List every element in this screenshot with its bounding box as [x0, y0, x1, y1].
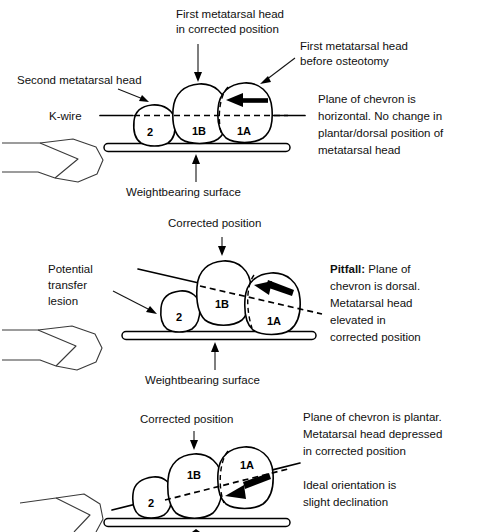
weightbearing-surface-bar-plantar — [104, 519, 290, 527]
bone-label-1A: 1A — [267, 315, 281, 327]
svg-text:Metatarsal head: Metatarsal head — [330, 297, 412, 309]
svg-text:lesion: lesion — [48, 295, 78, 307]
bone-label-2: 2 — [176, 311, 182, 323]
label-kwire-horizontal: K-wire — [49, 110, 82, 122]
svg-text:Second metatarsal head: Second metatarsal head — [17, 74, 142, 86]
bone-first-metatarsal-corrected-plantar: 1B — [168, 454, 222, 518]
pitfall-bold-label: Pitfall: — [330, 263, 365, 275]
svg-text:First metatarsal head: First metatarsal head — [300, 40, 408, 52]
bone-first-metatarsal-corrected-dorsal: 1B — [197, 261, 251, 325]
svg-text:Corrected position: Corrected position — [168, 217, 261, 229]
bone-label-1B: 1B — [187, 469, 201, 481]
bone-label-1B: 1B — [192, 125, 206, 137]
svg-text:Corrected position: Corrected position — [140, 413, 233, 425]
svg-text:slight declination: slight declination — [303, 496, 388, 508]
svg-text:Plane of chevron is plantar.: Plane of chevron is plantar. — [303, 411, 442, 423]
bone-second-metatarsal-head-horizontal: 2 — [134, 105, 175, 146]
svg-text:Weightbearing surface: Weightbearing surface — [145, 374, 260, 386]
svg-text:in corrected position: in corrected position — [303, 445, 406, 457]
svg-text:Plane of chevron is: Plane of chevron is — [318, 93, 416, 105]
svg-text:before osteotomy: before osteotomy — [300, 55, 389, 67]
svg-text:First metatarsal head: First metatarsal head — [176, 8, 284, 20]
weightbearing-surface-bar-dorsal — [122, 332, 316, 340]
bone-label-2: 2 — [147, 126, 153, 138]
svg-text:plantar/dorsal position of: plantar/dorsal position of — [318, 127, 444, 139]
pitfall-rest-label: Plane of — [365, 263, 411, 275]
svg-text:in corrected position: in corrected position — [176, 23, 279, 35]
svg-text:transfer: transfer — [48, 279, 87, 291]
svg-text:Pitfall: Plane of: Pitfall: Plane of — [330, 263, 411, 275]
svg-text:Ideal orientation is: Ideal orientation is — [303, 479, 397, 491]
bone-label-2: 2 — [148, 497, 154, 509]
bone-second-metatarsal-head-plantar: 2 — [133, 477, 172, 518]
svg-text:Metatarsal head depressed: Metatarsal head depressed — [303, 428, 442, 440]
bone-label-1A: 1A — [237, 125, 251, 137]
weightbearing-surface-bar-horizontal — [104, 144, 290, 152]
svg-text:Potential: Potential — [48, 263, 93, 275]
svg-text:Weightbearing surface: Weightbearing surface — [126, 186, 241, 198]
chevron-osteotomy-figure: 2 1B 1A First metatarsal head in correct… — [0, 0, 486, 532]
svg-text:chevron is dorsal.: chevron is dorsal. — [330, 280, 420, 292]
bone-label-1B: 1B — [215, 298, 229, 310]
bone-first-metatarsal-original-horizontal: 1A — [218, 83, 272, 143]
bone-second-metatarsal-head-dorsal: 2 — [161, 291, 200, 332]
bone-label-1A: 1A — [240, 459, 254, 471]
svg-text:corrected position: corrected position — [330, 331, 421, 343]
svg-text:horizontal. No change in: horizontal. No change in — [318, 110, 442, 122]
svg-text:metatarsal head: metatarsal head — [318, 144, 400, 156]
svg-text:elevated in: elevated in — [330, 314, 386, 326]
